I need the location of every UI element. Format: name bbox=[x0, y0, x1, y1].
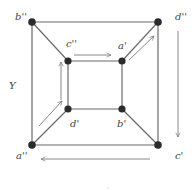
label-a-prime: a' bbox=[118, 41, 127, 51]
label-c-double-prime: c'' bbox=[66, 39, 77, 49]
vertex-a-double-prime bbox=[28, 141, 36, 149]
edge-b2-c2 bbox=[32, 22, 68, 61]
vertex-a-prime bbox=[118, 57, 125, 64]
label-a-double-prime: a'' bbox=[16, 151, 27, 161]
edge-d2-a1 bbox=[122, 22, 158, 61]
label-b-double-prime: b'' bbox=[15, 12, 27, 22]
vertex-c-double-prime bbox=[64, 57, 71, 64]
vertex-d-double-prime bbox=[154, 18, 162, 26]
vertex-c-prime bbox=[154, 141, 162, 149]
inner-square bbox=[68, 61, 122, 109]
vertex-b-prime bbox=[118, 105, 125, 112]
label-region-y: Y bbox=[9, 81, 16, 91]
arrow-a2-to-d1 bbox=[39, 101, 62, 126]
stray-dot bbox=[107, 187, 108, 188]
diagonal-edges bbox=[32, 22, 158, 145]
label-b-prime: b' bbox=[117, 119, 126, 129]
graph-diagram bbox=[0, 0, 195, 190]
label-c-prime: c' bbox=[175, 151, 183, 161]
vertex-d-prime bbox=[64, 105, 71, 112]
direction-arrows bbox=[39, 31, 178, 159]
label-d-double-prime: d'' bbox=[175, 12, 187, 22]
vertex-b-double-prime bbox=[28, 18, 36, 26]
edge-c1-b1 bbox=[122, 109, 158, 145]
label-d-prime: d' bbox=[70, 119, 79, 129]
